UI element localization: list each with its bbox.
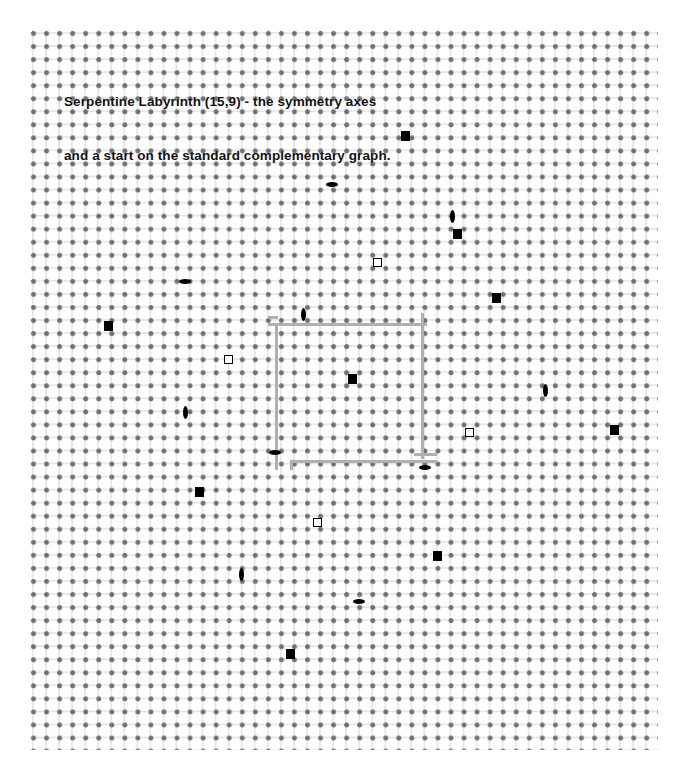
filled-square-marker [610,425,619,435]
vertical-lens-marker [239,568,244,581]
axis-segment [414,453,437,456]
horizontal-lens-marker [326,182,338,187]
filled-square-marker [492,293,501,303]
filled-square-marker [348,374,357,384]
vertical-lens-marker [543,384,548,397]
vertical-lens-marker [183,406,188,419]
horizontal-lens-marker [353,599,365,604]
open-square-marker [373,258,382,267]
axis-segment [421,313,424,459]
horizontal-lens-marker [419,465,431,470]
symmetry-axes-polyline [0,0,694,777]
axis-segment [290,460,293,470]
filled-square-marker [433,551,442,561]
filled-square-marker [195,487,204,497]
open-square-marker [313,518,322,527]
vertical-lens-marker [450,210,455,223]
horizontal-lens-marker [179,279,191,284]
horizontal-lens-marker [269,450,281,455]
axis-segment [290,460,437,463]
axis-segment [268,316,278,319]
filled-square-marker [286,649,295,659]
filled-square-marker [104,321,113,331]
filled-square-marker [401,131,410,141]
axis-segment [268,323,427,326]
figure-canvas: Serpentine Labyrinth (15,9) - the symmet… [0,0,694,777]
open-square-marker [224,355,233,364]
filled-square-marker [453,229,462,239]
open-square-marker [465,428,474,437]
vertical-lens-marker [301,308,306,321]
axis-segment [275,323,278,470]
